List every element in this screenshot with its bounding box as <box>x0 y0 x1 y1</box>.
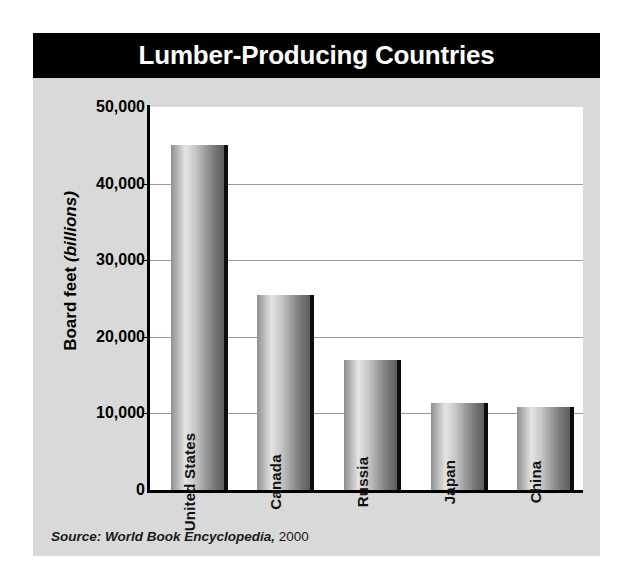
bar-label: Japan <box>441 460 458 504</box>
source-note: Source: World Book Encyclopedia, 2000 <box>51 529 309 544</box>
plot-area: United StatesCanadaRussiaJapanChina <box>150 107 583 490</box>
bar-united-states: United States <box>171 145 224 490</box>
bar-china: China <box>517 407 570 490</box>
source-year: 2000 <box>279 529 309 544</box>
y-axis-tick-label: 30,000 <box>55 252 145 268</box>
bar-label: United States <box>181 433 198 531</box>
y-axis-tick-labels: 010,00020,00030,00040,00050,000 <box>53 33 145 556</box>
y-axis-tick-mark <box>142 337 150 338</box>
y-axis-tick-mark <box>142 184 150 185</box>
y-axis-tick-label: 10,000 <box>55 405 145 421</box>
source-text: Source: World Book Encyclopedia, <box>51 529 275 544</box>
page-title: Lumber-Producing Countries <box>139 40 495 71</box>
bar-russia: Russia <box>344 360 397 490</box>
y-axis-tick-mark <box>142 260 150 261</box>
y-axis-tick-label: 20,000 <box>55 329 145 345</box>
plot-frame: United StatesCanadaRussiaJapanChina <box>147 107 583 490</box>
bar-japan: Japan <box>431 403 484 490</box>
bar-label: Russia <box>354 457 371 507</box>
y-axis-tick-label: 40,000 <box>55 176 145 192</box>
y-axis-tick-label: 0 <box>55 482 145 498</box>
chart-card: Lumber-Producing Countries Board feet (b… <box>33 33 600 556</box>
bar-label: China <box>527 461 544 504</box>
bar-canada: Canada <box>257 295 310 490</box>
y-axis-tick-mark <box>142 413 150 414</box>
bar-label: Canada <box>267 454 284 509</box>
y-axis-tick-label: 50,000 <box>55 99 145 115</box>
